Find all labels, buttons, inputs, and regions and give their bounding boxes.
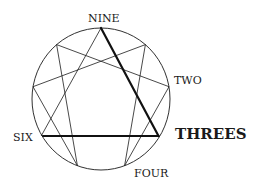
- edge-6-9: [41, 28, 101, 136]
- label-two: TWO: [174, 74, 202, 87]
- hexad-lines: [33, 45, 169, 166]
- triangle-bold-edges: [43, 28, 159, 136]
- enneagram-diagram: NINE TWO THREES SIX FOUR: [0, 0, 253, 189]
- label-nine: NINE: [88, 12, 120, 25]
- label-threes: THREES: [175, 125, 247, 143]
- enneagram-circle: [32, 28, 170, 170]
- edge-9-3: [101, 28, 159, 136]
- label-six: SIX: [13, 131, 33, 144]
- label-four: FOUR: [134, 167, 169, 180]
